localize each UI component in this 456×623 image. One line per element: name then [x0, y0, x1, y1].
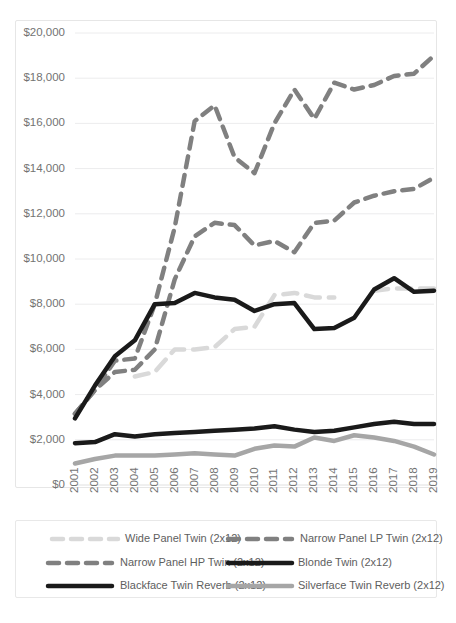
x-axis-tick-label: 2011: [267, 468, 279, 493]
gridlines: [75, 33, 434, 485]
x-axis-tick-label: 2016: [367, 467, 379, 493]
x-axis-tick-label: 2019: [427, 467, 439, 493]
y-axis-tick-labels: $0$2,000$4,000$6,000$8,000$10,000$12,000…: [23, 26, 65, 490]
y-axis-tick-label: $10,000: [23, 252, 65, 264]
y-axis-tick-label: $14,000: [23, 162, 65, 174]
x-axis-tick-label: 2013: [307, 467, 319, 493]
y-axis-tick-label: $18,000: [23, 71, 65, 83]
x-axis-tick-label: 2004: [128, 467, 140, 493]
x-axis-tick-label: 2009: [228, 467, 240, 493]
x-axis-tick-label: 2008: [208, 467, 220, 493]
legend-entries[interactable]: Wide Panel Twin (2x12)Narrow Panel LP Tw…: [48, 532, 445, 591]
chart-container: $0$2,000$4,000$6,000$8,000$10,000$12,000…: [0, 0, 456, 623]
x-axis-tick-label: 2014: [327, 467, 339, 493]
x-axis-tick-label: 2002: [88, 467, 100, 493]
y-axis-tick-label: $20,000: [23, 26, 65, 38]
series-line-2: [75, 178, 434, 414]
legend-label-0[interactable]: Wide Panel Twin (2x12): [125, 532, 241, 544]
y-axis-tick-label: $2,000: [30, 433, 65, 445]
x-axis-tick-label: 2018: [407, 467, 419, 493]
y-axis-tick-label: $16,000: [23, 116, 65, 128]
y-axis-tick-label: $8,000: [30, 297, 65, 309]
x-axis-tick-label: 2006: [168, 467, 180, 493]
line-chart: $0$2,000$4,000$6,000$8,000$10,000$12,000…: [0, 0, 456, 623]
series-line-1: [75, 56, 434, 414]
x-axis-tick-label: 2012: [287, 467, 299, 493]
x-axis-tick-label: 2001: [68, 467, 80, 493]
x-axis-tick-label: 2003: [108, 467, 120, 493]
series-lines: [75, 56, 434, 464]
x-axis-tick-labels: 2001200220032004200520062007200820092010…: [68, 467, 439, 493]
series-line-4: [75, 278, 434, 418]
y-axis-tick-label: $0: [52, 478, 65, 490]
x-axis-tick-label: 2007: [188, 467, 200, 493]
y-axis-tick-label: $12,000: [23, 207, 65, 219]
legend-label-3[interactable]: Blonde Twin (2x12): [298, 556, 392, 568]
x-axis-tick-label: 2010: [248, 467, 260, 493]
y-axis-tick-label: $6,000: [30, 342, 65, 354]
x-axis-tick-label: 2015: [347, 467, 359, 493]
x-axis-tick-label: 2005: [148, 467, 160, 493]
legend-label-1[interactable]: Narrow Panel LP Twin (2x12): [300, 532, 443, 544]
y-axis-tick-label: $4,000: [30, 388, 65, 400]
legend-label-5[interactable]: Silverface Twin Reverb (2x12): [298, 579, 445, 591]
x-axis-tick-label: 2017: [387, 467, 399, 493]
